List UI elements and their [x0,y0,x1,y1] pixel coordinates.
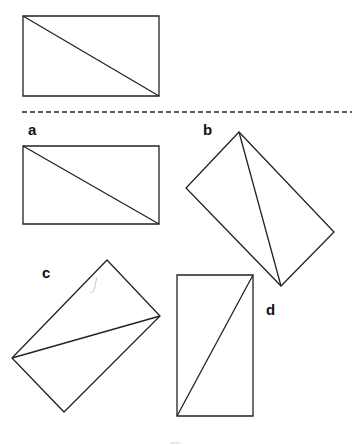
shape-diagonal [23,146,159,224]
shape-diagonal [239,132,281,286]
option-a-label: a [28,122,36,137]
option-c-shape[interactable] [12,260,160,412]
shape-diagonal [12,316,160,358]
option-c-label: c [42,265,50,280]
reference-shape [23,16,159,96]
option-a-shape[interactable] [23,146,159,224]
shape-outline [12,260,160,412]
shape-diagonal [23,16,159,96]
shape-diagonal [177,275,253,416]
option-b-label: b [203,122,212,137]
option-d-shape[interactable] [177,275,253,416]
diagram-canvas [0,0,352,445]
pencil-check-mark [90,277,97,293]
option-b-shape[interactable] [186,132,334,286]
option-d-label: d [266,302,275,317]
